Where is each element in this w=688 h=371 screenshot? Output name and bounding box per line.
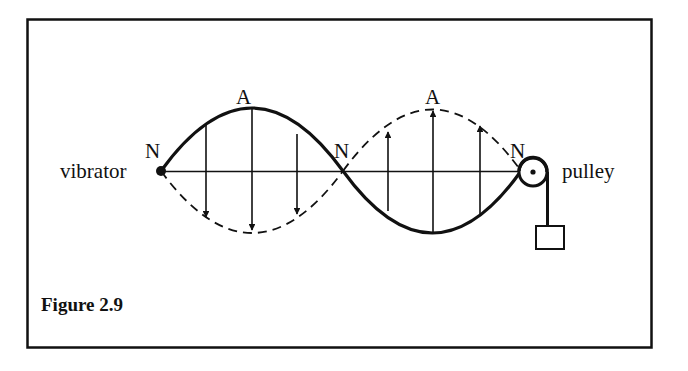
hanging-mass [536,226,564,249]
right-loop-solid-arc [343,171,521,233]
pulley-label: pulley [562,159,615,183]
antinode-label-left: A [236,85,252,109]
antinode-label-right: A [425,85,441,109]
node-label-right: N [510,139,525,163]
vibrator-dot [156,166,166,176]
pulley-icon [519,157,548,226]
node-label-left: N [145,139,160,163]
figure-panel: N A N A N vibrator pulley Figure 2.9 [0,0,688,371]
right-loop-dashed-arc [343,110,521,172]
node-label-middle: N [334,139,349,163]
vibrator-label: vibrator [60,159,126,183]
standing-wave-diagram: N A N A N vibrator pulley Figure 2.9 [0,0,688,371]
figure-caption: Figure 2.9 [41,294,123,315]
